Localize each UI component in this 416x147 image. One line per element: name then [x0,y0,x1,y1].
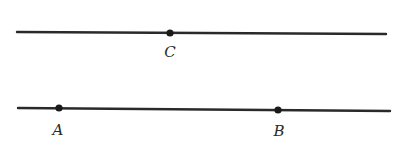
label-b: B [272,122,284,140]
label-a: A [51,121,64,139]
line-top [17,32,386,34]
point-a [55,104,62,111]
geometry-diagram: C A B [0,0,416,147]
point-c [166,29,173,36]
point-b [274,106,281,113]
label-c: C [164,43,176,61]
line-bottom [18,108,390,111]
